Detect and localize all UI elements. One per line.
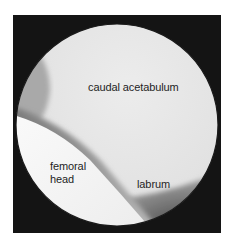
arthroscopic-view	[0, 0, 233, 251]
label-femoral-line1: femoral	[50, 160, 86, 173]
label-femoral-line2: head	[50, 173, 86, 186]
scope-circle	[0, 0, 233, 251]
label-femoral-head: femoral head	[50, 160, 86, 186]
label-caudal-acetabulum: caudal acetabulum	[88, 81, 179, 94]
label-labrum: labrum	[137, 178, 170, 191]
